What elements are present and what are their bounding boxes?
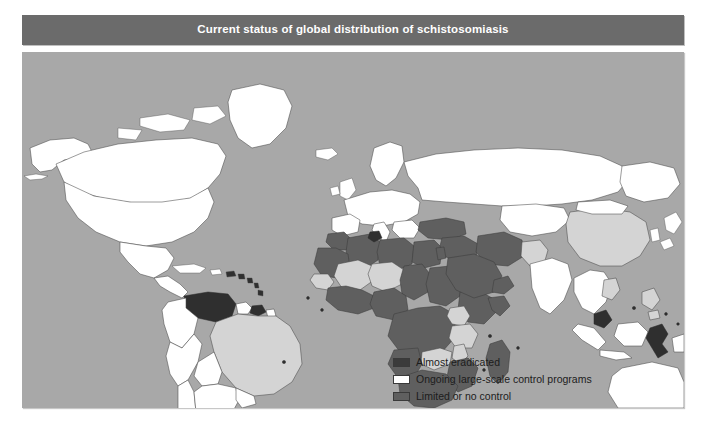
legend-item-almost-eradicated: Almost eradicated <box>393 356 592 369</box>
legend-item-ongoing-control: Ongoing large-scale control programs <box>393 373 592 386</box>
legend-swatch-ongoing-control <box>393 375 410 384</box>
world-map-svg: .land{fill:#ffffff;stroke:#4a4a4a;stroke… <box>22 52 684 408</box>
legend-label-limited-or-no-control: Limited or no control <box>416 391 511 402</box>
figure-title: Current status of global distribution of… <box>197 24 508 36</box>
map-legend: Almost eradicated Ongoing large-scale co… <box>393 356 592 403</box>
legend-swatch-almost-eradicated <box>393 358 410 367</box>
legend-label-ongoing-control: Ongoing large-scale control programs <box>416 374 592 385</box>
world-map: .land{fill:#ffffff;stroke:#4a4a4a;stroke… <box>22 52 684 408</box>
legend-item-limited-or-no-control: Limited or no control <box>393 390 592 403</box>
figure-title-bar: Current status of global distribution of… <box>22 15 684 45</box>
legend-swatch-limited-or-no-control <box>393 392 410 401</box>
legend-label-almost-eradicated: Almost eradicated <box>416 357 500 368</box>
figure-panel: Current status of global distribution of… <box>0 0 707 430</box>
